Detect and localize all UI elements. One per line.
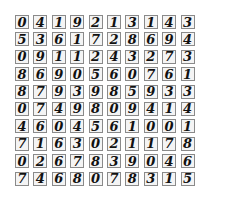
handwritten-digit: 4	[36, 16, 45, 29]
handwritten-digit: 1	[73, 50, 82, 63]
handwritten-digit: 1	[109, 16, 118, 29]
digit-cell: 1	[144, 15, 158, 29]
handwritten-digit: 1	[183, 120, 192, 133]
digit-cell: 4	[162, 154, 176, 168]
digit-cell: 3	[125, 15, 139, 29]
handwritten-digit: 5	[17, 33, 26, 46]
digit-cell: 8	[15, 85, 29, 99]
digit-cell: 0	[89, 137, 103, 151]
digit-cell: 6	[33, 119, 47, 133]
digit-cell: 8	[181, 137, 195, 151]
digit-cell: 3	[125, 50, 139, 64]
handwritten-digit: 4	[109, 50, 118, 63]
digit-cell: 7	[162, 137, 176, 151]
digit-cell: 3	[144, 172, 158, 186]
digit-cell: 6	[33, 67, 47, 81]
digit-cell: 1	[52, 50, 66, 64]
handwritten-digit: 3	[128, 16, 137, 29]
handwritten-digit: 4	[183, 102, 192, 115]
digit-cell: 4	[70, 119, 84, 133]
digit-cell: 6	[162, 67, 176, 81]
handwritten-digit: 6	[183, 155, 192, 168]
handwritten-digit: 0	[17, 50, 26, 63]
handwritten-digit: 3	[183, 85, 192, 98]
handwritten-digit: 6	[146, 33, 155, 46]
digit-cell: 2	[144, 50, 158, 64]
handwritten-digit: 1	[146, 137, 155, 150]
digit-cell: 0	[70, 67, 84, 81]
handwritten-digit: 4	[73, 120, 82, 133]
digit-cell: 7	[33, 85, 47, 99]
handwritten-digit: 7	[91, 33, 100, 46]
handwritten-digit: 0	[17, 16, 26, 29]
handwritten-digit: 9	[128, 155, 137, 168]
digit-cell: 6	[52, 154, 66, 168]
digit-cell: 8	[125, 172, 139, 186]
digit-cell: 6	[181, 154, 195, 168]
handwritten-digit: 6	[165, 68, 174, 81]
handwritten-digit: 8	[91, 102, 100, 115]
digit-cell: 1	[52, 15, 66, 29]
handwritten-digit: 0	[109, 102, 118, 115]
digit-cell: 9	[52, 67, 66, 81]
digit-cell: 0	[15, 50, 29, 64]
handwritten-digit: 8	[73, 172, 82, 185]
digit-cell: 1	[181, 67, 195, 81]
digit-cell: 4	[107, 50, 121, 64]
digit-cell: 0	[144, 119, 158, 133]
digit-cell: 6	[52, 32, 66, 46]
digit-cell: 9	[33, 50, 47, 64]
digit-cell: 9	[144, 85, 158, 99]
digit-cell: 3	[33, 32, 47, 46]
handwritten-digit: 9	[165, 33, 174, 46]
handwritten-digit: 1	[128, 137, 137, 150]
digit-cell: 0	[125, 67, 139, 81]
digit-cell: 0	[107, 102, 121, 116]
handwritten-digit: 0	[91, 137, 100, 150]
handwritten-digit: 4	[17, 120, 26, 133]
handwritten-digit: 6	[36, 120, 45, 133]
digit-cell: 5	[89, 119, 103, 133]
digit-cell: 9	[70, 102, 84, 116]
handwritten-digit: 9	[73, 16, 82, 29]
handwritten-digit: 0	[165, 120, 174, 133]
handwritten-digit: 6	[54, 33, 63, 46]
handwritten-digit: 7	[36, 85, 45, 98]
handwritten-digit: 4	[165, 16, 174, 29]
handwritten-digit: 7	[165, 137, 174, 150]
digit-cell: 0	[15, 15, 29, 29]
handwritten-digit: 3	[128, 50, 137, 63]
digit-cell: 8	[70, 172, 84, 186]
handwritten-digit: 8	[17, 68, 26, 81]
handwritten-digit: 2	[36, 155, 45, 168]
digit-cell: 5	[89, 67, 103, 81]
digit-cell: 2	[107, 137, 121, 151]
digit-cell: 1	[107, 15, 121, 29]
digit-cell: 9	[89, 85, 103, 99]
handwritten-digit: 9	[73, 102, 82, 115]
digit-cell: 6	[144, 32, 158, 46]
handwritten-digit: 2	[91, 16, 100, 29]
digit-cell: 8	[107, 85, 121, 99]
handwritten-digit: 1	[165, 102, 174, 115]
handwritten-digit: 6	[109, 120, 118, 133]
digit-cell: 4	[33, 15, 47, 29]
handwritten-digit: 6	[54, 155, 63, 168]
handwritten-digit: 3	[109, 155, 118, 168]
digit-cell: 8	[89, 102, 103, 116]
digit-cell: 4	[52, 102, 66, 116]
digit-cell: 3	[181, 15, 195, 29]
digit-cell: 1	[162, 102, 176, 116]
digit-cell: 9	[70, 15, 84, 29]
handwritten-digit: 2	[109, 137, 118, 150]
digit-cell: 2	[89, 50, 103, 64]
digit-cell: 0	[15, 102, 29, 116]
handwritten-digit: 3	[183, 16, 192, 29]
handwritten-digit: 2	[91, 50, 100, 63]
handwritten-digit: 1	[183, 68, 192, 81]
handwritten-digit: 6	[109, 68, 118, 81]
handwritten-digit: 7	[109, 172, 118, 185]
digit-cell: 0	[15, 154, 29, 168]
digit-cell: 6	[52, 137, 66, 151]
handwritten-digit: 1	[165, 172, 174, 185]
